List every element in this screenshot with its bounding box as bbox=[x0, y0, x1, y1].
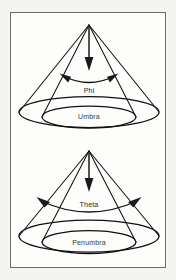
umbra-cone-diagram: Phi Umbra bbox=[11, 13, 165, 141]
figure-frame: Phi Umbra bbox=[10, 12, 166, 268]
umbra-axis-arrow-icon bbox=[85, 27, 94, 71]
penumbra-cone-diagram: Theta Penumbra bbox=[11, 139, 165, 267]
penumbra-outer-ellipse bbox=[19, 220, 159, 252]
penumbra-axis-arrow-icon bbox=[85, 153, 94, 192]
penumbra-region-label: Penumbra bbox=[72, 239, 106, 246]
umbra-angle-label: Phi bbox=[84, 86, 95, 95]
umbra-region-label: Umbra bbox=[78, 113, 100, 120]
umbra-angle-arc-icon bbox=[60, 74, 119, 83]
figure-root: Phi Umbra bbox=[0, 0, 176, 280]
umbra-outer-ellipse bbox=[19, 97, 159, 128]
penumbra-base-ellipses bbox=[19, 220, 159, 254]
penumbra-angle-label: Theta bbox=[80, 200, 99, 209]
